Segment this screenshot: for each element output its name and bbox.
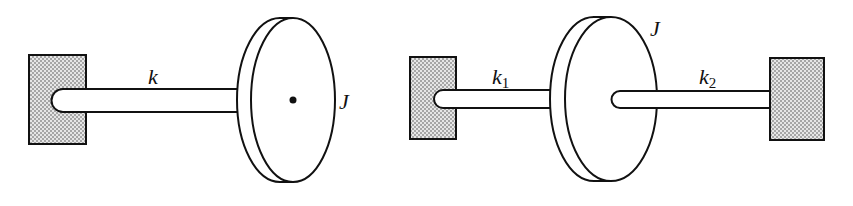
label-k2: k2 [699,64,716,91]
disk-j [237,18,335,182]
label-j-left: J [339,89,350,114]
disk-center-dot [290,97,297,104]
left-system: k J [29,18,350,182]
label-k: k [148,64,159,89]
fixed-wall-right [770,58,824,140]
shaft-k1 [434,90,555,108]
shaft-k [52,89,239,112]
label-j-right: J [650,16,661,41]
right-system: k1 k2 J [410,16,824,181]
shaft-k2 [612,91,772,108]
label-k1: k1 [492,64,509,91]
torsional-systems-diagram: k J k1 k2 J [0,0,853,206]
